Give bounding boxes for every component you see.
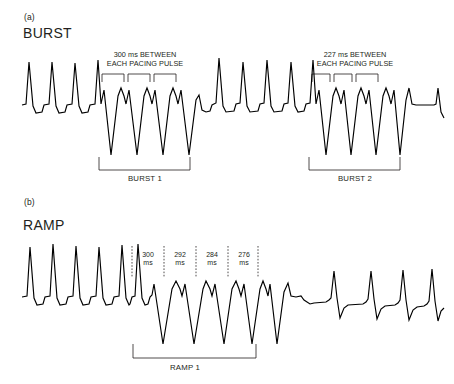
panel-a-title: BURST: [23, 26, 72, 40]
panel-ramp: (b) RAMP 300 ms 292 ms 284 ms 276 ms RAM…: [0, 192, 454, 384]
ramp-interval-2: 292 ms: [165, 251, 195, 268]
burst1-interval-brackets: [102, 74, 176, 82]
burst2-interval-line1: 227 ms BETWEEN: [310, 50, 400, 59]
panel-b-title: RAMP: [23, 218, 65, 232]
ramp-interval-4-value: 276: [229, 251, 259, 259]
burst1-interval-annotation: 300 ms BETWEEN EACH PACING PULSE: [100, 50, 190, 68]
ramp-interval-2-unit: ms: [165, 259, 195, 267]
ramp-ecg-tracing: [0, 192, 454, 384]
panel-a-letter: (a): [24, 13, 35, 22]
panel-burst: (a) BURST 300 ms BETWEEN EACH PACING PUL…: [0, 0, 454, 192]
ramp-interval-3-unit: ms: [197, 259, 227, 267]
burst2-interval-brackets: [312, 74, 378, 82]
figure-antitachycardia-pacing: (a) BURST 300 ms BETWEEN EACH PACING PUL…: [0, 0, 454, 384]
panel-b-letter: (b): [24, 198, 35, 207]
ramp-interval-3: 284 ms: [197, 251, 227, 268]
burst2-interval-annotation: 227 ms BETWEEN EACH PACING PULSE: [310, 50, 400, 68]
ramp-interval-2-value: 292: [165, 251, 195, 259]
ramp-interval-4: 276 ms: [229, 251, 259, 268]
burst2-interval-line2: EACH PACING PULSE: [310, 59, 400, 68]
ramp-interval-1: 300 ms: [133, 251, 163, 268]
burst-1-bracket: [99, 157, 190, 170]
ramp-interval-1-value: 300: [133, 251, 163, 259]
ramp-interval-3-value: 284: [197, 251, 227, 259]
ramp-1-bracket: [133, 344, 256, 358]
burst-waveform-path: [22, 58, 444, 155]
ramp-interval-1-unit: ms: [133, 259, 163, 267]
burst-2-label: BURST 2: [310, 175, 400, 183]
burst1-interval-line1: 300 ms BETWEEN: [100, 50, 190, 59]
ramp-1-label: RAMP 1: [140, 364, 230, 372]
burst1-interval-line2: EACH PACING PULSE: [100, 59, 190, 68]
burst-2-bracket: [309, 157, 400, 170]
ramp-interval-4-unit: ms: [229, 259, 259, 267]
burst-1-label: BURST 1: [100, 175, 190, 183]
